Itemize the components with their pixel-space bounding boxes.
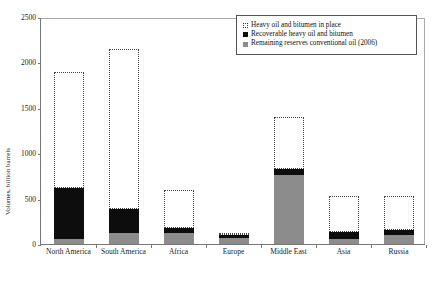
bar-segment-in-place[interactable]: [384, 196, 414, 231]
bar-segment-conventional[interactable]: [164, 233, 194, 244]
black-square-icon: [243, 32, 248, 37]
x-axis-label: Asia: [337, 247, 351, 256]
y-axis-tick-label: 2000: [21, 60, 41, 68]
bar-group[interactable]: [54, 18, 84, 244]
y-axis-tick-label: 0: [32, 241, 41, 249]
y-axis-tick-label: 2500: [21, 14, 41, 22]
x-axis-label: North America: [46, 247, 91, 256]
y-axis-tick-label: 500: [25, 196, 41, 204]
bar-segment-conventional[interactable]: [274, 175, 304, 244]
x-axis-tick-mark: [206, 245, 207, 248]
legend-item-label: Heavy oil and bitumen in place: [251, 22, 341, 30]
bar-segment-in-place[interactable]: [274, 117, 304, 169]
bar-segment-conventional[interactable]: [54, 239, 84, 244]
x-axis-label: Africa: [169, 247, 188, 256]
bar-segment-in-place[interactable]: [109, 49, 139, 209]
y-axis-title: Volumes, billion barrels: [4, 145, 12, 215]
bar-segment-conventional[interactable]: [219, 238, 249, 244]
gray-square-icon: [243, 42, 248, 47]
legend-item: Remaining reserves conventional oil (200…: [243, 40, 411, 48]
x-axis-label: South America: [101, 247, 146, 256]
x-axis-tick-mark: [426, 245, 427, 248]
legend-item: Heavy oil and bitumen in place: [243, 22, 411, 30]
bar-group[interactable]: [164, 18, 194, 244]
legend-item-label: Recoverable heavy oil and bitumen: [251, 31, 353, 39]
bar-segment-in-place[interactable]: [329, 196, 359, 232]
bar-segment-conventional[interactable]: [384, 235, 414, 244]
chart-legend: Heavy oil and bitumen in place Recoverab…: [236, 15, 417, 55]
y-axis-tick-label: 1000: [21, 150, 41, 158]
chart-container: Volumes, billion barrels 050010001500200…: [0, 0, 439, 281]
x-axis-tick-mark: [96, 245, 97, 248]
x-axis-label: Middle East: [270, 247, 306, 256]
bar-segment-recoverable[interactable]: [109, 209, 139, 234]
x-axis-tick-mark: [371, 245, 372, 248]
x-axis-tick-mark: [151, 245, 152, 248]
bar-segment-in-place[interactable]: [54, 72, 84, 188]
legend-item: Recoverable heavy oil and bitumen: [243, 31, 411, 39]
dotted-outline-square-icon: [243, 23, 248, 28]
x-axis-label: Europe: [223, 247, 245, 256]
legend-item-label: Remaining reserves conventional oil (200…: [251, 40, 377, 48]
x-axis-label: Russia: [388, 247, 408, 256]
x-axis-tick-mark: [261, 245, 262, 248]
bar-group[interactable]: [109, 18, 139, 244]
bar-segment-conventional[interactable]: [109, 233, 139, 244]
bar-segment-in-place[interactable]: [164, 190, 194, 228]
x-axis-tick-mark: [316, 245, 317, 248]
y-axis-tick-label: 1500: [21, 105, 41, 113]
bar-segment-recoverable[interactable]: [54, 188, 84, 239]
bar-segment-conventional[interactable]: [329, 239, 359, 244]
